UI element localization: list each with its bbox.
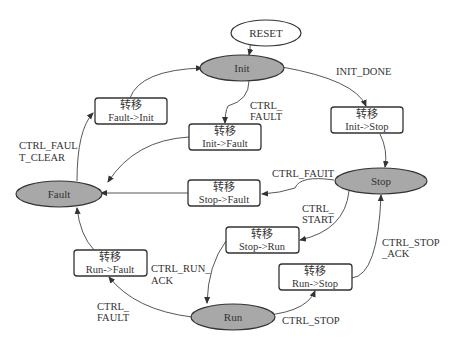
event-ctrl-start-line1: CTRL_ xyxy=(302,203,335,214)
state-fault[interactable]: Fault xyxy=(16,181,102,207)
event-ctrl-stop: CTRL_STOP xyxy=(282,315,340,326)
event-ctrl-fault-line2: FAULT xyxy=(250,111,283,122)
event-ctrl-fault-line1: CTRL_ xyxy=(250,100,283,111)
edge-initstop-stop xyxy=(380,134,386,167)
transition-label: Stop->Run xyxy=(239,241,286,252)
event-ctrl-run-ack-line1: CTRL_RUN_ xyxy=(151,263,211,274)
transition-init-fault[interactable]: 转移 Init->Fault xyxy=(189,124,261,150)
event-ctrl-stop-ack-line2: _ACK xyxy=(381,248,410,259)
state-label: Fault xyxy=(48,188,71,200)
transition-init-stop[interactable]: 转移 Init->Stop xyxy=(331,107,403,133)
event-init-done: INIT_DONE xyxy=(336,66,391,77)
transition-label: Fault->Init xyxy=(108,112,154,123)
state-label: Stop xyxy=(371,175,392,187)
state-stop[interactable]: Stop xyxy=(335,168,427,194)
transition-stop-run[interactable]: 转移 Stop->Run xyxy=(226,227,299,253)
transition-title: 转移 xyxy=(251,227,273,241)
event-ctrl-stop-ack-line1: CTRL_STOP xyxy=(382,237,440,248)
edge-fault-faultinit xyxy=(77,113,93,181)
state-machine-diagram: RESET Init Stop Fault Run 转移 Fault->Init… xyxy=(0,0,454,346)
start-label: RESET xyxy=(249,27,283,39)
state-init[interactable]: Init xyxy=(200,55,284,81)
transition-title: 转移 xyxy=(214,124,236,138)
transition-label: Init->Fault xyxy=(202,138,248,149)
edge-runstop-stop xyxy=(352,195,381,278)
event-ctrl-run-ack-line2: ACK xyxy=(151,275,174,286)
event-ctrl-start-line2: START xyxy=(302,214,334,225)
transition-label: Init->Stop xyxy=(345,121,388,132)
event-ctrl-fault-clear-line2: T_CLEAR xyxy=(19,152,65,163)
event-ctrl-fault-clear-line1: CTRL_FAUL xyxy=(19,140,78,151)
transition-title: 转移 xyxy=(304,264,326,278)
transition-title: 转移 xyxy=(120,98,142,112)
transition-stop-fault[interactable]: 转移 Stop->Fault xyxy=(188,180,260,206)
transition-title: 转移 xyxy=(213,180,235,194)
transition-label: Run->Fault xyxy=(86,264,135,275)
state-label: Init xyxy=(234,62,249,74)
transition-title: 转移 xyxy=(99,250,121,264)
edge-runfault-fault xyxy=(77,208,94,250)
transition-label: Run->Stop xyxy=(292,278,338,289)
event-ctrl-fault-run-line2: FAULT xyxy=(97,312,130,323)
event-ctrl-fauit: CTRL_FAUIT xyxy=(272,168,335,179)
edge-init-initfault xyxy=(225,81,249,123)
start-node-reset[interactable]: RESET xyxy=(231,20,301,46)
edge-initfault-fault xyxy=(108,137,189,182)
event-ctrl-fault-run-line1: CTRL_ xyxy=(97,301,130,312)
transition-run-fault[interactable]: 转移 Run->Fault xyxy=(74,250,147,276)
state-run[interactable]: Run xyxy=(191,304,275,330)
edge-faultinit-init xyxy=(130,68,202,98)
transition-fault-init[interactable]: 转移 Fault->Init xyxy=(95,98,167,124)
transition-label: Stop->Fault xyxy=(199,194,249,205)
state-label: Run xyxy=(224,311,243,323)
transition-title: 转移 xyxy=(356,107,378,121)
transition-run-stop[interactable]: 转移 Run->Stop xyxy=(279,264,352,290)
edge-stop-stopfault xyxy=(262,179,334,194)
